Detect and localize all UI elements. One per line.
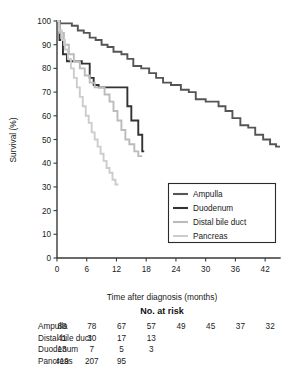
risk-cell: 41 [57, 334, 67, 343]
survival-figure: 0102030405060708090100 06121824303642 Su… [0, 0, 296, 377]
y-tick-label: 90 [42, 41, 52, 50]
risk-cell: 95 [117, 357, 127, 366]
risk-cell: 5 [119, 345, 124, 354]
risk-cell: 30 [87, 334, 97, 343]
x-tick-label: 12 [112, 265, 122, 274]
x-tick-label: 18 [142, 265, 152, 274]
risk-cell: 207 [85, 357, 99, 366]
x-tick-label: 0 [55, 265, 60, 274]
legend-label-distal-bile-duct: Distal bile duct [193, 218, 247, 227]
y-tick-label: 0 [46, 254, 51, 263]
risk-cell: 13 [57, 345, 67, 354]
x-tick-label: 24 [171, 265, 181, 274]
risk-cell: 17 [117, 334, 127, 343]
y-tick-label: 60 [42, 112, 52, 121]
risk-table-title: No. at risk [140, 306, 185, 316]
x-tick-label: 36 [231, 265, 241, 274]
risk-cell: 7 [89, 345, 94, 354]
risk-cell: 45 [206, 322, 216, 331]
y-tick-label: 50 [42, 136, 52, 145]
legend-label-ampulla: Ampulla [193, 190, 223, 199]
x-axis-label: Time after diagnosis (months) [107, 292, 218, 302]
legend-label-pancreas: Pancreas [193, 232, 228, 241]
y-tick-label: 80 [42, 64, 52, 73]
y-tick-label: 100 [37, 17, 51, 26]
risk-cell: 32 [266, 322, 276, 331]
risk-cell: 49 [176, 322, 186, 331]
chart-legend: AmpullaDuodenumDistal bile ductPancreas [169, 184, 276, 243]
risk-cell: 78 [87, 322, 97, 331]
x-tick-label: 42 [261, 265, 271, 274]
y-tick-label: 70 [42, 88, 52, 97]
risk-cell: 88 [57, 322, 67, 331]
y-axis-label: Survival (%) [8, 117, 18, 162]
risk-cell: 57 [147, 322, 157, 331]
risk-cell: 37 [236, 322, 246, 331]
x-tick-label: 6 [84, 265, 89, 274]
risk-cell: 419 [55, 357, 69, 366]
y-tick-label: 30 [42, 183, 52, 192]
risk-cell: 3 [149, 345, 154, 354]
chart-svg: 0102030405060708090100 06121824303642 Su… [0, 0, 296, 377]
x-tick-label: 30 [201, 265, 211, 274]
risk-cell: 67 [117, 322, 127, 331]
y-tick-label: 10 [42, 230, 52, 239]
legend-label-duodenum: Duodenum [193, 204, 233, 213]
y-tick-label: 20 [42, 207, 52, 216]
risk-cell: 13 [147, 334, 157, 343]
y-tick-label: 40 [42, 159, 52, 168]
